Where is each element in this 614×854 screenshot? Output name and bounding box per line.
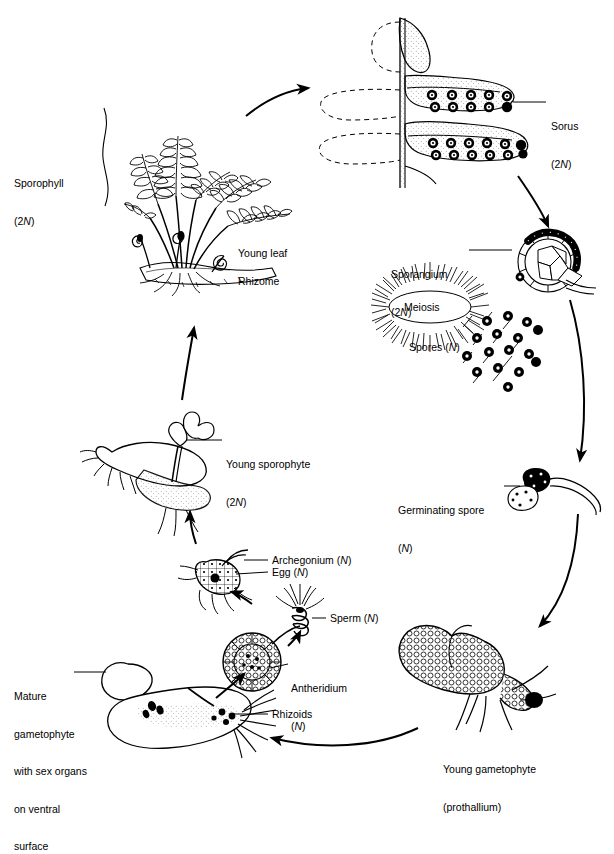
egg-leader bbox=[236, 572, 268, 574]
label-antheridium-line1: Antheridium bbox=[291, 682, 347, 695]
label-sporophyll-line1: Sporophyll bbox=[14, 177, 64, 190]
label-sorus: Sorus (2N) bbox=[551, 95, 578, 183]
label-young-gametophyte-line2: (prothallium) bbox=[443, 801, 536, 814]
label-germinating-spore-line1: Germinating spore bbox=[398, 504, 484, 517]
label-rhizome: Rhizome bbox=[238, 275, 279, 288]
label-mature-gametophyte-line5: surface bbox=[14, 840, 87, 853]
sperm-illustration bbox=[276, 584, 324, 636]
label-antheridium: Antheridium (N) bbox=[291, 657, 347, 745]
label-mature-gametophyte-line4: on ventral bbox=[14, 803, 87, 816]
label-young-gametophyte: Young gametophyte (prothallium) bbox=[443, 738, 536, 826]
archegonium-illustration bbox=[178, 550, 252, 614]
arrow-sperm-to-archegonium bbox=[232, 592, 252, 604]
label-sorus-line1: Sorus bbox=[551, 120, 578, 133]
label-young-leaf: Young leaf bbox=[238, 247, 287, 260]
young-gametophyte-illustration bbox=[399, 625, 556, 732]
sporophyll-brace bbox=[103, 108, 108, 206]
label-spores: Spores (N) bbox=[409, 341, 460, 354]
arrow-sorus-to-sporangium bbox=[518, 176, 548, 226]
sorus-pinna-illustration bbox=[319, 18, 527, 188]
label-sporophyll: Sporophyll (2N) bbox=[14, 152, 64, 240]
label-antheridium-line2: (N) bbox=[291, 720, 347, 733]
germinating-spore-illustration bbox=[508, 468, 601, 515]
label-egg: Egg (N) bbox=[272, 566, 308, 579]
label-mature-gametophyte-line1: Mature bbox=[14, 690, 87, 703]
arrow-plant-to-sorus bbox=[246, 88, 308, 116]
arrow-sporangium-to-germinating-spore bbox=[570, 300, 584, 460]
label-young-sporophyte-line2: (2N) bbox=[226, 496, 310, 509]
label-sporophyll-line2: (2N) bbox=[14, 215, 64, 228]
label-germinating-spore: Germinating spore (N) bbox=[398, 479, 484, 567]
sporophyll-fern-plant-illustration bbox=[124, 136, 292, 296]
label-young-sporophyte: Young sporophyte (2N) bbox=[226, 433, 310, 521]
label-young-gametophyte-line1: Young gametophyte bbox=[443, 763, 536, 776]
label-mature-gametophyte-line2: gametophyte bbox=[14, 728, 87, 741]
spore-dots bbox=[462, 311, 543, 392]
arrow-young-sporophyte-to-plant bbox=[182, 328, 194, 400]
young-sporophyte-illustration bbox=[80, 412, 214, 536]
label-young-sporophyte-line1: Young sporophyte bbox=[226, 458, 310, 471]
label-archegonium: Archegonium (N) bbox=[272, 554, 351, 567]
label-mature-gametophyte: Mature gametophyte with sex organs on ve… bbox=[14, 665, 87, 854]
label-sorus-line2: (2N) bbox=[551, 158, 578, 171]
sporangium-illustration bbox=[516, 232, 596, 294]
label-sporangium-line1: Sporangium bbox=[391, 268, 448, 281]
arrow-antheridium-to-sperm bbox=[288, 632, 300, 646]
label-germinating-spore-line2: (N) bbox=[398, 542, 484, 555]
label-mature-gametophyte-line3: with sex organs bbox=[14, 765, 87, 778]
label-sperm: Sperm (N) bbox=[330, 612, 378, 625]
label-sporangium: Sporangium (2N) bbox=[391, 243, 448, 331]
label-meiosis: Meiosis bbox=[404, 301, 440, 314]
spores-illustration bbox=[462, 311, 543, 392]
arrow-germ-to-young-gametophyte bbox=[540, 514, 578, 626]
